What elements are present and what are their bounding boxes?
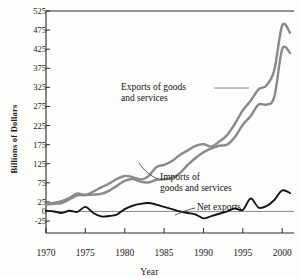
annotation-exports-line2: and services: [121, 93, 186, 104]
x-tick-label: 1975: [65, 248, 105, 258]
x-tick-label: 1970: [26, 248, 66, 258]
annotation-imports: Imports of goods and services: [160, 172, 232, 194]
annotation-imports-line2: goods and services: [160, 183, 232, 194]
x-tick-label: 2000: [262, 248, 299, 258]
plot-area: [0, 0, 299, 278]
x-axis-ticks: 1970197519801985199019952000: [0, 248, 299, 262]
annotation-imports-line1: Imports of: [160, 172, 232, 183]
annotation-exports-line1: Exports of goods: [121, 82, 186, 93]
annotation-net-exports-line1: Net exports: [197, 202, 241, 213]
annotation-net-exports: Net exports: [197, 202, 241, 213]
x-tick-label: 1990: [183, 248, 223, 258]
annotation-exports: Exports of goods and services: [121, 82, 186, 104]
x-axis-title: Year: [0, 267, 299, 277]
chart-figure: Billions of Dollars 52547542537532527522…: [0, 0, 299, 278]
axis-spines: [46, 11, 294, 233]
x-tick-label: 1985: [144, 248, 184, 258]
x-tick-label: 1980: [105, 248, 145, 258]
x-tick-label: 1995: [223, 248, 263, 258]
